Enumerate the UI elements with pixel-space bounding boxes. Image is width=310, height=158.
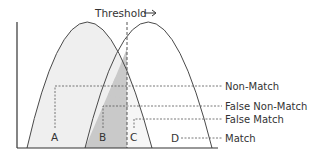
leader-line-false-match xyxy=(134,119,222,128)
threshold-title: Threshold xyxy=(94,7,147,19)
legend-match: Match xyxy=(225,133,256,144)
region-label-d: D xyxy=(171,132,179,144)
region-label-c: C xyxy=(130,131,137,143)
region-label-b: B xyxy=(99,131,106,143)
threshold-diagram: Threshold A B C D Non-Match False Non-Ma… xyxy=(0,0,310,158)
legend-false-match: False Match xyxy=(225,114,284,125)
region-label-a: A xyxy=(51,131,59,143)
legend-false-non-match: False Non-Match xyxy=(225,101,307,112)
legend-non-match: Non-Match xyxy=(225,81,279,92)
